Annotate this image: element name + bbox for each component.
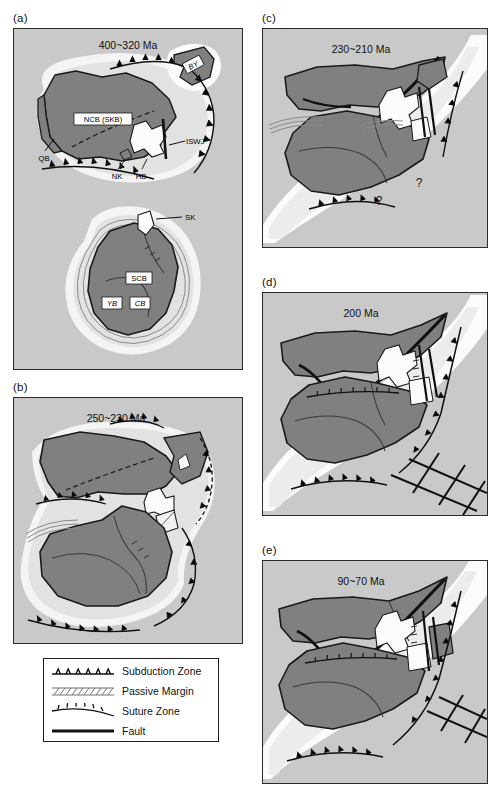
sk-wedge-c <box>411 117 431 141</box>
panel-a-map: QB NCB (SKB) ISWJ NK HB BY SK SCB YB CB … <box>14 29 242 369</box>
legend-row-subduction: Subduction Zone <box>44 661 218 681</box>
legend-row-suture: Suture Zone <box>44 701 218 721</box>
panel-e: 90~70 Ma <box>262 560 488 784</box>
nk-hb-inlier <box>130 121 166 157</box>
age-label-e: 90~70 Ma <box>338 575 385 587</box>
panel-c: ? ? 230~210 Ma <box>262 28 488 248</box>
label-iswj: ISWJ <box>186 137 205 146</box>
panel-d-map: 200 Ma <box>263 293 487 515</box>
panel-b: 250~230 Ma <box>13 397 243 644</box>
legend-row-fault: Fault <box>44 721 218 741</box>
age-label-d: 200 Ma <box>343 307 378 319</box>
legend-label-passive: Passive Margin <box>122 685 194 697</box>
panel-a: QB NCB (SKB) ISWJ NK HB BY SK SCB YB CB … <box>13 28 243 370</box>
panel-d: 200 Ma <box>262 292 488 516</box>
panel-label-c: (c) <box>262 12 276 24</box>
label-ncb-skb: NCB (SKB) <box>84 115 123 124</box>
label-qb: QB <box>39 154 50 163</box>
ridge-transform-grid-d <box>391 453 487 515</box>
ridge-transform-grid-e <box>427 695 487 743</box>
question-mark-2: ? <box>376 194 383 208</box>
panel-label-e: (e) <box>262 544 277 556</box>
age-label-b: 250~230 Ma <box>87 412 146 424</box>
label-hb: HB <box>136 172 147 181</box>
label-cb: CB <box>135 299 146 308</box>
subduction-zone-icon <box>44 664 122 678</box>
legend-box: Subduction Zone Passive Margin <box>43 658 219 742</box>
label-scb: SCB <box>131 274 147 283</box>
panel-c-map: ? ? 230~210 Ma <box>263 29 487 247</box>
panel-e-map: 90~70 Ma <box>263 561 487 783</box>
sk-wedge-d <box>409 377 433 405</box>
panel-label-b: (b) <box>13 381 28 393</box>
label-nk: NK <box>112 172 123 181</box>
age-label-c: 230~210 Ma <box>332 43 391 55</box>
label-yb: YB <box>107 299 117 308</box>
fault-icon <box>44 725 122 737</box>
passive-margin-icon <box>44 684 122 698</box>
panel-label-d: (d) <box>262 276 277 288</box>
legend-label-suture: Suture Zone <box>122 705 180 717</box>
panel-label-a: (a) <box>13 12 28 24</box>
age-label-a: 400~320 Ma <box>99 39 158 51</box>
panel-b-map: 250~230 Ma <box>14 398 242 643</box>
suture-zone-icon <box>44 703 122 719</box>
label-sk: SK <box>185 213 196 222</box>
question-mark-1: ? <box>416 176 423 190</box>
legend-row-passive: Passive Margin <box>44 681 218 701</box>
legend-label-subduction: Subduction Zone <box>122 665 201 677</box>
legend-label-fault: Fault <box>122 725 145 737</box>
